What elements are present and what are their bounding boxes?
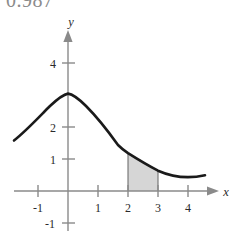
y-tick-label-4: 4 [50, 57, 56, 71]
y-axis-label: y [66, 15, 74, 29]
shaded-area-region [128, 153, 158, 191]
x-axis-arrowhead [207, 186, 219, 195]
x-axis-label: x [222, 185, 229, 199]
y-tick-label-neg1: -1 [45, 217, 55, 231]
y-tick-label-2: 2 [50, 121, 56, 135]
x-tick-label-4: 4 [185, 201, 191, 215]
plot-canvas: x y -1 1 2 3 4 4 2 1 -1 [0, 0, 239, 251]
x-tick-label-3: 3 [155, 201, 161, 215]
y-axis-arrowhead [63, 30, 72, 42]
y-tick-label-1: 1 [50, 153, 56, 167]
x-tick-label-neg1: -1 [33, 201, 43, 215]
x-tick-label-1: 1 [95, 201, 101, 215]
curve-path [14, 94, 205, 178]
x-tick-label-2: 2 [125, 201, 131, 215]
figure-container: 0.987 x y -1 1 2 3 4 4 [0, 0, 239, 251]
